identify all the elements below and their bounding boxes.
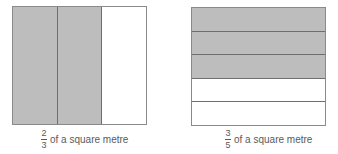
caption-text: of a square metre [50, 134, 128, 145]
fraction-two-thirds: 2 3 [41, 129, 47, 150]
numerator: 3 [225, 129, 230, 138]
unshaded-third-3 [101, 7, 146, 124]
three-fifths-caption: 3 5 of a square metre [225, 129, 312, 150]
two-thirds-square [12, 6, 147, 125]
two-thirds-caption: 2 3 of a square metre [41, 129, 128, 150]
denominator: 5 [225, 141, 230, 150]
three-fifths-square [191, 7, 326, 126]
denominator: 3 [41, 141, 46, 150]
shaded-fifth-3 [192, 54, 325, 78]
unshaded-fifth-5 [192, 101, 325, 125]
numerator: 2 [41, 129, 46, 138]
shaded-fifth-2 [192, 31, 325, 55]
unshaded-fifth-4 [192, 78, 325, 102]
caption-text: of a square metre [234, 134, 312, 145]
shaded-third-2 [57, 7, 102, 124]
fraction-three-fifths: 3 5 [225, 129, 231, 150]
shaded-fifth-1 [192, 8, 325, 31]
shaded-third-1 [13, 7, 57, 124]
